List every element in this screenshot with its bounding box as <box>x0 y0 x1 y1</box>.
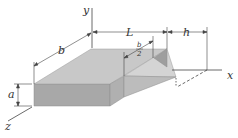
origin-dashed <box>177 70 207 87</box>
half-width-denominator: 2 <box>136 50 142 58</box>
block-solid <box>34 49 176 106</box>
height-label: a <box>8 88 15 101</box>
z-axis <box>8 107 32 121</box>
diagram-canvas: y x z L h b a b 2 <box>0 0 238 138</box>
z-axis-label: z <box>4 120 11 133</box>
y-axis-label: y <box>82 4 90 17</box>
front-face <box>34 84 110 106</box>
half-width-numerator: b <box>137 41 142 49</box>
wedge-lower-face <box>124 76 176 97</box>
x-axis-label: x <box>227 69 234 82</box>
length-label: L <box>125 26 133 39</box>
offset-label: h <box>183 26 190 39</box>
block-diagram: y x z L h b a b 2 <box>0 0 238 138</box>
width-label: b <box>58 44 65 57</box>
